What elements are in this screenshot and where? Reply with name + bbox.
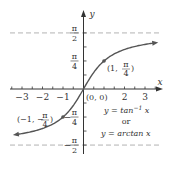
x-tick-label: −1	[56, 92, 69, 102]
x-tick-label: −2	[36, 92, 49, 102]
y-axis-label: y	[89, 9, 96, 19]
y-tick-label-num: π	[72, 24, 77, 33]
y-tick-label-den: 2	[72, 146, 77, 155]
y-tick-label-sign: −	[64, 140, 72, 150]
point-label-origin: (0, 0)	[86, 93, 108, 102]
x-axis-arrow-icon	[156, 87, 163, 92]
point-label-1-den: 4	[123, 69, 128, 78]
x-tick-label: 2	[122, 92, 128, 102]
x-tick-label: −3	[15, 92, 29, 102]
point-label-2-den: 4	[42, 120, 47, 129]
equation-line-2: or	[122, 117, 131, 126]
point-marker	[102, 59, 106, 63]
point-label-2-close: )	[50, 115, 53, 124]
point-label-2: (−1, −	[17, 115, 44, 124]
y-axis-arrow-icon	[81, 10, 86, 17]
equation-line-3: y = arctan x	[100, 129, 151, 138]
point-label-1-close: )	[131, 64, 134, 73]
point-label-1-num: π	[123, 60, 128, 69]
y-tick-label-den: 4	[72, 118, 77, 127]
equation-line-1: y = tan−1 x	[103, 104, 150, 115]
curve-arrow-icon	[13, 132, 19, 137]
x-tick-label: 3	[142, 92, 148, 102]
point-label-1: (1,	[107, 64, 118, 73]
curve-arrow-icon	[152, 41, 158, 46]
y-tick-label-num: π	[72, 52, 77, 61]
y-tick-label-num: π	[72, 108, 77, 117]
y-tick-label-den: 2	[72, 34, 77, 43]
y-tick-label-num: π	[72, 136, 77, 145]
point-label-2-num: π	[42, 111, 47, 120]
x-axis-label: x	[157, 77, 162, 87]
y-tick-label-den: 4	[72, 62, 77, 71]
y-tick-label-sign: −	[64, 112, 72, 122]
arctan-graph: xy−3−2−123π2π4−π4−π2(1, π4)(−1, −π4)(0, …	[0, 0, 169, 180]
